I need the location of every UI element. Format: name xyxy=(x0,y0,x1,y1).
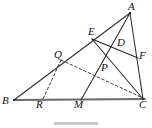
vertex-dot-B xyxy=(13,99,15,101)
caption-rule xyxy=(54,122,98,125)
vertex-dot-A xyxy=(129,12,131,14)
point-label-R: R xyxy=(36,99,43,110)
segment-BA xyxy=(14,13,130,100)
point-label-A: A xyxy=(128,1,135,12)
point-label-B: B xyxy=(2,95,9,106)
segment-QR-dashed xyxy=(43,60,61,99)
segment-EF xyxy=(92,39,138,58)
point-label-F: F xyxy=(139,50,146,61)
point-label-P: P xyxy=(101,62,108,73)
point-label-C: C xyxy=(139,99,146,110)
point-label-Q: Q xyxy=(54,49,62,60)
point-label-D: D xyxy=(117,37,125,48)
point-label-M: M xyxy=(74,99,83,110)
geometry-figure: A B C D E F M P Q R xyxy=(0,0,152,128)
point-label-E: E xyxy=(88,26,95,37)
